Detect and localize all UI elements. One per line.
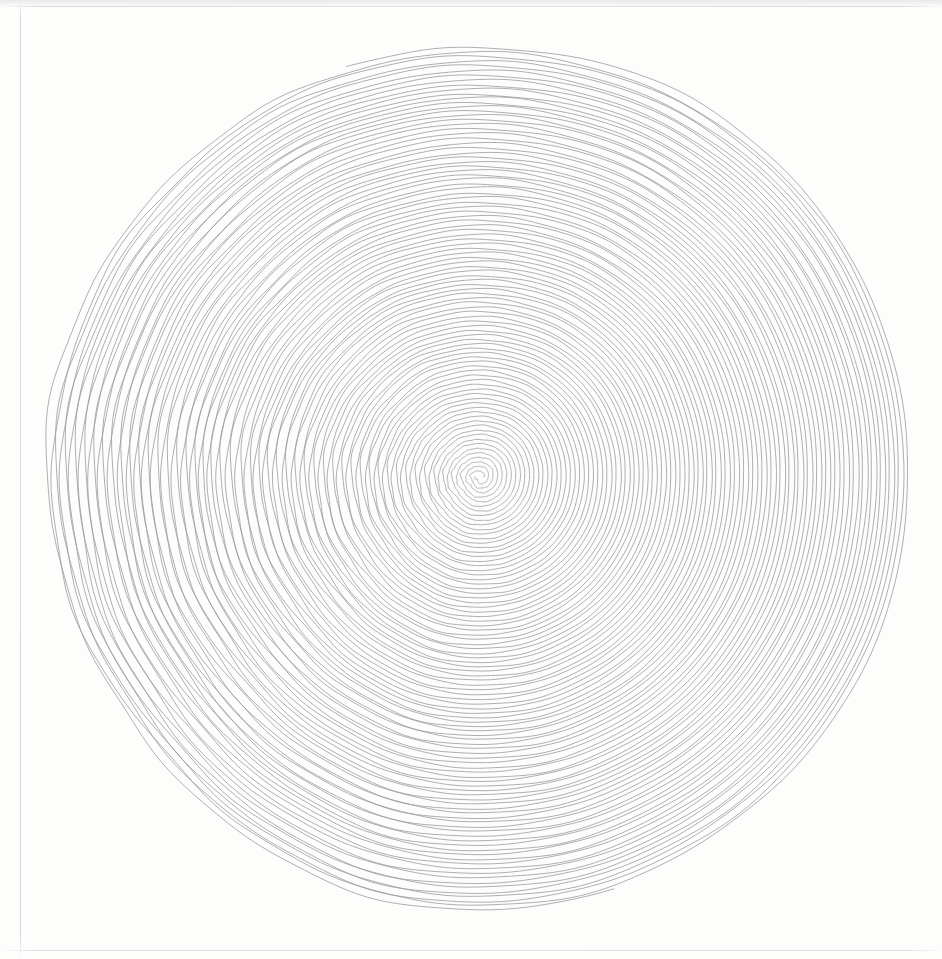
- concentric-double-spiral: [0, 0, 942, 959]
- artwork-page: [0, 0, 942, 959]
- spiral-arm-arm-a: [46, 51, 904, 909]
- spiral-arm-group: [46, 47, 908, 910]
